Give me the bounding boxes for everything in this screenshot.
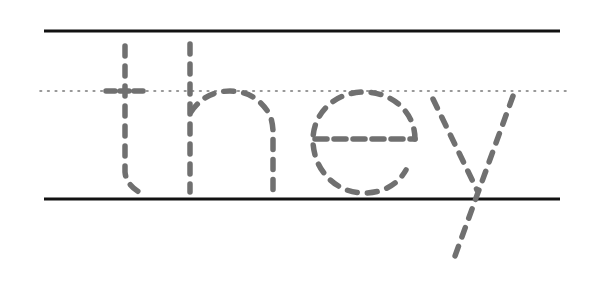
letter-t-trace — [106, 46, 146, 192]
e-bowl — [313, 92, 415, 193]
letter-e-trace — [313, 92, 415, 193]
letter-h-trace — [190, 44, 273, 192]
y-left-stroke — [433, 99, 477, 190]
t-stem — [125, 46, 139, 192]
h-arch — [191, 91, 273, 192]
letter-y-trace — [433, 96, 513, 256]
worksheet-canvas — [0, 0, 592, 281]
tracing-worksheet: they — [0, 0, 592, 281]
y-right-stroke — [455, 96, 513, 256]
